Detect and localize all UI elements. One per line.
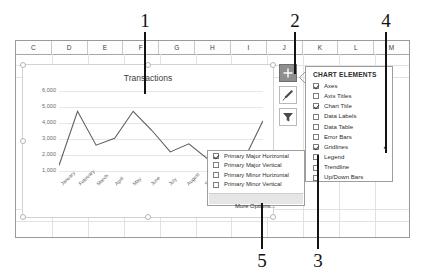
chart-element-label: Trendline	[324, 164, 349, 171]
gridlines-option-label: Primary Major Vertical	[224, 162, 282, 168]
funnel-icon	[280, 109, 296, 125]
checkbox-data-labels[interactable]	[313, 114, 319, 120]
y-tick-6000: 6,000	[42, 88, 56, 94]
callout-line-4	[385, 32, 387, 153]
gridlines-submenu[interactable]: Primary Major HorizontalPrimary Major Ve…	[207, 150, 305, 206]
chart-element-item-error-bars[interactable]: Error Bars	[306, 132, 392, 142]
column-header-m[interactable]: M	[374, 41, 409, 54]
callout-line-3	[317, 155, 319, 249]
chart-element-label: Error Bars	[324, 134, 352, 141]
resize-handle-bottom-left[interactable]	[20, 214, 26, 220]
column-header-i[interactable]: I	[231, 41, 267, 54]
gridlines-option-primary-major-vertical[interactable]: Primary Major Vertical	[208, 161, 304, 171]
resize-handle-top-right[interactable]	[270, 62, 276, 68]
checkbox-primary-major-vertical[interactable]	[213, 162, 219, 168]
column-header-k[interactable]: K	[303, 41, 339, 54]
callout-line-1	[144, 32, 146, 94]
column-header-h[interactable]: H	[195, 41, 231, 54]
chart-element-item-axes[interactable]: Axes	[306, 81, 392, 91]
chart-element-label: Chart Title	[324, 103, 352, 110]
checkbox-primary-minor-vertical[interactable]	[213, 182, 219, 188]
column-header-d[interactable]: D	[52, 41, 88, 54]
checkbox-axes[interactable]	[313, 83, 319, 89]
column-header-f[interactable]: F	[123, 41, 159, 54]
callout-line-2	[294, 32, 296, 74]
chart-element-item-data-labels[interactable]: Data Labels	[306, 112, 392, 122]
checkbox-axis-titles[interactable]	[313, 93, 319, 99]
y-tick-2000: 2,000	[42, 152, 56, 158]
y-tick-1000: 1,000	[42, 168, 56, 174]
chart-element-item-data-table[interactable]: Data Table	[306, 122, 392, 132]
y-tick-4000: 4,000	[42, 120, 56, 126]
chart-element-label: Data Table	[324, 124, 353, 131]
chart-element-item-chart-title[interactable]: Chart Title	[306, 101, 392, 111]
column-header-g[interactable]: G	[159, 41, 195, 54]
checkbox-chart-title[interactable]	[313, 103, 319, 109]
chart-element-label: Data Labels	[324, 113, 357, 120]
checkbox-data-table[interactable]	[313, 124, 319, 130]
more-options-label: More Options...	[209, 203, 275, 209]
more-options-item[interactable]: More Options...	[209, 193, 303, 204]
chart-styles-button[interactable]	[279, 86, 297, 104]
callout-number-4: 4	[377, 11, 395, 30]
panel-callout-beak	[299, 71, 306, 84]
gridlines-option-label: Primary Major Horizontal	[224, 153, 289, 159]
callout-number-3: 3	[309, 251, 327, 270]
column-header-row: C D E F G H I J K L M	[16, 41, 409, 55]
gridlines-option-primary-minor-vertical[interactable]: Primary Minor Vertical	[208, 180, 304, 190]
chart-element-label: Up/Down Bars	[324, 174, 363, 181]
y-tick-3000: 3,000	[42, 136, 56, 142]
checkbox-gridlines[interactable]	[313, 144, 319, 150]
callout-number-1: 1	[136, 11, 154, 30]
column-header-l[interactable]: L	[338, 41, 374, 54]
column-header-e[interactable]: E	[88, 41, 124, 54]
chart-element-label: Gridlines	[324, 144, 348, 151]
chart-element-item-axis-titles[interactable]: Axis Titles	[306, 91, 392, 101]
chart-element-label: Legend	[324, 154, 344, 161]
chart-elements-panel-title: CHART ELEMENTS	[306, 67, 392, 81]
resize-handle-bottom-right[interactable]	[270, 214, 276, 220]
chart-title[interactable]: Transactions	[23, 73, 273, 83]
checkbox-primary-minor-horizontal[interactable]	[213, 172, 219, 178]
chart-element-label: Axes	[324, 83, 338, 90]
column-header-j[interactable]: J	[267, 41, 303, 54]
y-tick-5000: 5,000	[42, 104, 56, 110]
chart-filters-button[interactable]	[279, 108, 297, 126]
callout-number-2: 2	[286, 11, 304, 30]
column-header-c[interactable]: C	[16, 41, 52, 54]
gridlines-option-label: Primary Minor Vertical	[224, 181, 282, 187]
chart-element-item-gridlines[interactable]: Gridlines▸	[306, 142, 392, 152]
checkbox-primary-major-horizontal[interactable]	[213, 153, 219, 159]
checkbox-error-bars[interactable]	[313, 134, 319, 140]
gridlines-option-label: Primary Minor Horizontal	[224, 172, 289, 178]
brush-icon	[280, 87, 296, 103]
gridlines-submenu-list[interactable]: Primary Major HorizontalPrimary Major Ve…	[208, 151, 304, 189]
x-axis-label-july: July	[168, 177, 178, 187]
chart-element-label: Axis Titles	[324, 93, 351, 100]
gridlines-option-primary-minor-horizontal[interactable]: Primary Minor Horizontal	[208, 170, 304, 180]
callout-line-5	[261, 203, 263, 249]
gridlines-option-primary-major-horizontal[interactable]: Primary Major Horizontal	[208, 151, 304, 161]
resize-handle-top-left[interactable]	[20, 62, 26, 68]
resize-handle-middle-left[interactable]	[20, 138, 26, 144]
callout-number-5: 5	[253, 251, 271, 270]
